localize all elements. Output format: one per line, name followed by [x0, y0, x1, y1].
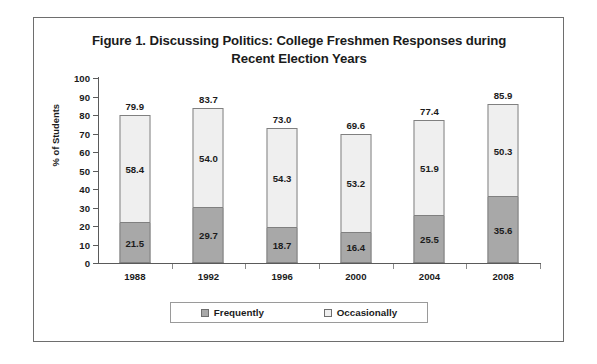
bar-segment-value: 54.3 [273, 173, 292, 184]
y-tick-label: 50 [79, 165, 90, 176]
x-tick-mark [319, 264, 320, 269]
legend-item[interactable]: Occasionally [324, 307, 397, 318]
x-tick-mark [466, 264, 467, 269]
bar-segment-value: 53.2 [346, 178, 365, 189]
bar-segment-value: 16.4 [346, 242, 365, 253]
plot-area: 1009080706050403020100 79.958.421.583.75… [98, 78, 540, 263]
bar-total-label: 73.0 [273, 114, 292, 125]
chart-legend: FrequentlyOccasionally [170, 302, 428, 323]
bar-segment-value: 58.4 [125, 164, 144, 175]
bar-segment-frequently[interactable]: 29.7 [193, 208, 224, 263]
legend-label: Occasionally [337, 307, 397, 318]
stacked-bar[interactable]: 79.958.421.5 [119, 115, 150, 263]
bar-segment-frequently[interactable]: 25.5 [414, 216, 445, 263]
bar-segment-value: 21.5 [125, 237, 144, 248]
bar-segment-frequently[interactable]: 21.5 [119, 223, 150, 263]
bar-segment-frequently[interactable]: 18.7 [267, 228, 298, 263]
bar-segment-occasionally[interactable]: 54.3 [267, 128, 298, 228]
bar-total-label: 83.7 [199, 94, 218, 105]
x-axis-category-label: 2008 [466, 271, 540, 282]
bar-segment-value: 29.7 [199, 230, 218, 241]
x-axis-category-label: 1996 [245, 271, 319, 282]
legend-item[interactable]: Frequently [201, 307, 264, 318]
y-tick-label: 80 [79, 110, 90, 121]
bar-slot: 83.754.029.7 [172, 78, 246, 263]
bar-segment-occasionally[interactable]: 50.3 [488, 104, 519, 197]
stacked-bar[interactable]: 85.950.335.6 [488, 104, 519, 263]
chart-plot-wrapper: % of Students 1009080706050403020100 79.… [34, 18, 563, 341]
stacked-bar[interactable]: 77.451.925.5 [414, 120, 445, 263]
x-tick-mark [540, 264, 541, 269]
bar-segment-value: 18.7 [273, 240, 292, 251]
bar-slot: 73.054.318.7 [245, 78, 319, 263]
x-axis-category-label: 1992 [172, 271, 246, 282]
stacked-bar[interactable]: 73.054.318.7 [267, 128, 298, 263]
bar-segment-occasionally[interactable]: 54.0 [193, 108, 224, 208]
y-tick-label: 60 [79, 147, 90, 158]
x-axis-category-label: 2004 [393, 271, 467, 282]
y-tick-label: 10 [79, 239, 90, 250]
bar-segment-value: 35.6 [494, 224, 513, 235]
y-tick-mark [93, 263, 98, 264]
y-tick-label: 30 [79, 202, 90, 213]
stacked-bar[interactable]: 83.754.029.7 [193, 108, 224, 263]
y-tick-label: 20 [79, 221, 90, 232]
y-tick-label: 100 [74, 73, 90, 84]
y-tick-label: 40 [79, 184, 90, 195]
x-axis-category-label: 1988 [98, 271, 172, 282]
x-tick-mark [393, 264, 394, 269]
bar-slot: 85.950.335.6 [466, 78, 540, 263]
legend-label: Frequently [214, 307, 264, 318]
bar-segment-frequently[interactable]: 16.4 [340, 233, 371, 263]
y-tick-label: 70 [79, 128, 90, 139]
bar-total-label: 77.4 [420, 106, 439, 117]
bar-segment-value: 50.3 [494, 145, 513, 156]
bar-segment-frequently[interactable]: 35.6 [488, 197, 519, 263]
legend-swatch-icon [201, 309, 209, 317]
bar-total-label: 79.9 [125, 101, 144, 112]
bar-total-label: 85.9 [494, 90, 513, 101]
y-axis-title: % of Students [50, 153, 61, 167]
y-tick-label: 0 [85, 258, 90, 269]
bar-segment-occasionally[interactable]: 53.2 [340, 134, 371, 232]
bar-total-label: 69.6 [346, 120, 365, 131]
figure-frame: Figure 1. Discussing Politics: College F… [33, 17, 564, 342]
bar-slot: 77.451.925.5 [393, 78, 467, 263]
stacked-bar[interactable]: 69.653.216.4 [340, 134, 371, 263]
bar-segment-occasionally[interactable]: 58.4 [119, 115, 150, 223]
x-tick-mark [245, 264, 246, 269]
bar-slot: 79.958.421.5 [98, 78, 172, 263]
x-tick-mark [172, 264, 173, 269]
bar-segment-value: 54.0 [199, 153, 218, 164]
bar-segment-value: 25.5 [420, 233, 439, 244]
bar-segment-value: 51.9 [420, 162, 439, 173]
bar-segment-occasionally[interactable]: 51.9 [414, 120, 445, 216]
bar-slot: 69.653.216.4 [319, 78, 393, 263]
legend-swatch-icon [324, 309, 332, 317]
x-axis-category-label: 2000 [319, 271, 393, 282]
y-tick-label: 90 [79, 91, 90, 102]
